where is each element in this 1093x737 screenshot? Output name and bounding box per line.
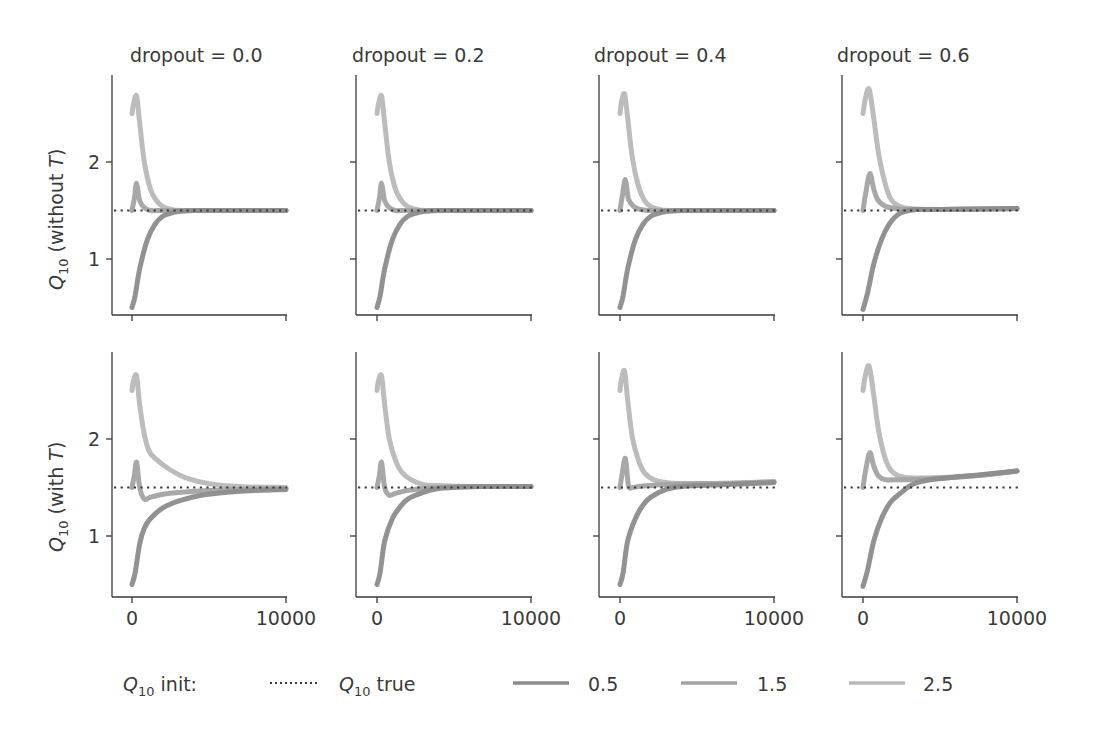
x-tick-label: 10000 (501, 607, 561, 629)
series-line-0.5 (863, 209, 1017, 310)
x-tick-label: 0 (126, 607, 138, 629)
x-tick-label: 10000 (987, 607, 1047, 629)
series-line-2.5 (132, 95, 286, 210)
panel-r0-c2 (593, 75, 775, 321)
panel-r1-c1: 010000 (350, 352, 561, 629)
series-line-0.5 (863, 471, 1017, 586)
series-line-0.5 (132, 210, 286, 307)
panel-title-col3: dropout = 0.6 (837, 44, 969, 66)
y-tick-label: 1 (88, 248, 100, 270)
panels-grid: 1212010000010000010000010000 (88, 75, 1047, 629)
x-tick-label: 0 (371, 607, 383, 629)
series-line-0.5 (377, 486, 531, 584)
panel-title-col0: dropout = 0.0 (130, 44, 262, 66)
series-line-2.5 (132, 375, 286, 488)
panel-r0-c3 (836, 75, 1018, 321)
x-tick-label: 0 (857, 607, 869, 629)
panel-r1-c0: 12010000 (88, 352, 316, 629)
panel-r0-c0: 12 (88, 75, 287, 321)
panel-title-col2: dropout = 0.4 (594, 44, 726, 66)
panel-r1-c2: 010000 (593, 352, 804, 629)
legend: Q10 init: Q10 true 0.5 1.5 2.5 (123, 673, 953, 699)
y-tick-label: 2 (88, 151, 100, 173)
legend-label-1.5: 1.5 (757, 673, 787, 695)
series-line-0.5 (377, 210, 531, 307)
panel-title-col1: dropout = 0.2 (352, 44, 484, 66)
y-tick-label: 2 (88, 428, 100, 450)
x-tick-label: 10000 (256, 607, 316, 629)
series-line-0.5 (620, 210, 774, 307)
x-tick-label: 10000 (744, 607, 804, 629)
figure: dropout = 0.0 dropout = 0.2 dropout = 0.… (0, 0, 1093, 737)
legend-label-0.5: 0.5 (588, 673, 618, 695)
series-line-2.5 (377, 375, 531, 487)
ylabel-row1: Q10 (with T) (45, 442, 71, 552)
series-line-0.5 (620, 483, 774, 585)
series-line-2.5 (620, 370, 774, 484)
legend-title: Q10 init: (123, 673, 197, 699)
series-line-2.5 (863, 366, 1017, 478)
y-tick-label: 1 (88, 525, 100, 547)
legend-label-2.5: 2.5 (923, 673, 953, 695)
series-line-0.5 (132, 489, 286, 584)
x-tick-label: 0 (614, 607, 626, 629)
series-line-2.5 (863, 89, 1017, 210)
panel-r0-c1 (350, 75, 532, 321)
series-line-2.5 (377, 95, 531, 210)
ylabel-row0: Q10 (without T) (45, 149, 71, 290)
legend-label-true: Q10 true (339, 673, 416, 699)
series-line-2.5 (620, 94, 774, 211)
panel-r1-c3: 010000 (836, 352, 1047, 629)
